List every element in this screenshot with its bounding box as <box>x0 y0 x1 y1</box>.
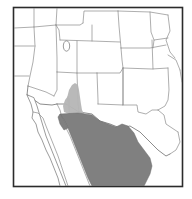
map-canvas <box>0 0 192 199</box>
great-salt-lake <box>63 41 69 51</box>
range-map-figure <box>0 0 192 199</box>
